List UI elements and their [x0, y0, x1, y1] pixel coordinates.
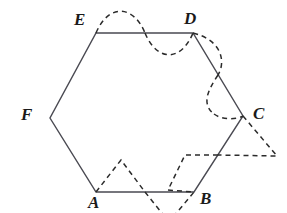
zigzag-peak-up-AB	[96, 160, 145, 192]
figure-canvas	[0, 0, 287, 213]
vertex-label-B: B	[200, 190, 211, 207]
sine-tail-DC	[214, 114, 243, 119]
sine-bulge-left-DC	[207, 75, 218, 114]
hexagon-solid-outline	[50, 33, 243, 192]
vertex-label-A: A	[88, 194, 99, 211]
sine-crest-above-ED	[96, 11, 145, 33]
zigzag-peak-right-CB	[218, 116, 277, 156]
hexagon-shape	[50, 33, 243, 192]
vertex-label-C: C	[253, 105, 264, 122]
zigzag-peak-left-CB	[168, 155, 218, 190]
sine-trough-below-ED	[145, 33, 193, 55]
vertex-label-F: F	[21, 106, 32, 123]
zigzag-peak-down-AB	[145, 192, 194, 213]
vertex-label-D: D	[184, 10, 196, 27]
geometry-figure: A B C D E F	[0, 0, 287, 213]
dashed-zigzag-right-CB	[168, 116, 277, 192]
vertex-label-E: E	[74, 11, 85, 28]
